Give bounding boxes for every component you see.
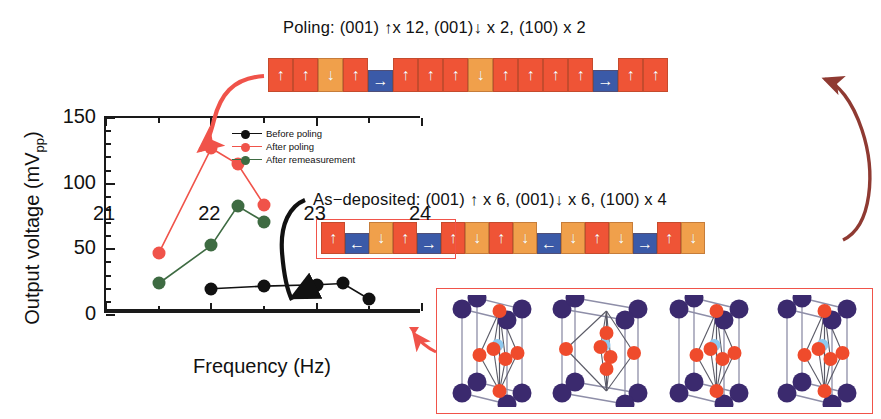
y-tick-label: 50 xyxy=(34,236,96,259)
y-tick-label: 100 xyxy=(34,170,96,193)
atom-oxygen xyxy=(487,342,501,356)
chart-legend: Before poling After poling After remeasu… xyxy=(232,127,355,166)
y-tick-minor xyxy=(106,130,111,132)
domain-cell-down: ↓ xyxy=(609,222,633,254)
domain-cell-right: → xyxy=(368,70,393,92)
data-point xyxy=(337,277,350,290)
legend-label-after-remeasurement: After remeasurement xyxy=(266,153,355,166)
domain-cell-up: ↑ xyxy=(585,222,609,254)
arrow-down-icon: ↓ xyxy=(521,230,529,246)
y-tick-minor xyxy=(106,288,111,290)
domain-cell-up: ↑ xyxy=(268,58,293,92)
x-tick-top-minor xyxy=(368,118,370,123)
as-deposited-highlight-box xyxy=(316,219,456,259)
arrow-up-icon: ↑ xyxy=(502,67,510,83)
atom-oxygen xyxy=(600,326,614,340)
x-tick-major xyxy=(421,303,423,311)
arrow-left-icon: ← xyxy=(541,236,557,252)
domain-cell-down: ↓ xyxy=(465,222,489,254)
arrow-up-icon: ↑ xyxy=(497,230,505,246)
inset-connector-arrow xyxy=(414,334,436,352)
y-tick-minor xyxy=(106,170,111,172)
x-tick-label: 22 xyxy=(198,202,220,225)
arrow-up-icon: ↑ xyxy=(552,67,560,83)
atom-oxygen xyxy=(511,346,525,360)
atom-a-site xyxy=(468,373,487,392)
legend-label-before-poling: Before poling xyxy=(266,127,322,140)
data-point xyxy=(310,278,323,291)
domain-cell-up: ↑ xyxy=(343,58,368,92)
x-tick-top-minor xyxy=(263,118,265,123)
x-tick-minor xyxy=(263,306,265,311)
arrow-down-icon: ↓ xyxy=(473,230,481,246)
arrow-up-icon: ↑ xyxy=(652,67,660,83)
atom-oxygen xyxy=(559,342,573,356)
domain-cell-up: ↑ xyxy=(443,58,468,92)
arrow-up-icon: ↑ xyxy=(302,67,310,83)
arrow-up-icon: ↑ xyxy=(627,67,635,83)
atom-oxygen xyxy=(835,346,849,360)
x-tick-top xyxy=(105,118,107,126)
x-tick-label: 21 xyxy=(93,202,115,225)
arrow-down-icon: ↓ xyxy=(617,230,625,246)
y-tick-minor xyxy=(106,275,111,277)
figure-canvas: Poling: (001) ↑x 12, (001)↓ x 2, (100) x… xyxy=(0,0,881,419)
data-point xyxy=(363,293,376,306)
data-point xyxy=(205,239,218,252)
x-tick-top xyxy=(316,118,318,126)
y-tick-minor xyxy=(106,301,111,303)
atom-oxygen xyxy=(594,340,608,354)
domain-cell-up: ↑ xyxy=(418,58,443,92)
perovskite-unit-cell xyxy=(659,295,759,407)
domain-cell-left: ← xyxy=(537,233,561,254)
y-tick-major xyxy=(106,314,115,316)
remeasurement-loop-arrow xyxy=(825,79,870,240)
arrow-right-icon: → xyxy=(637,236,653,252)
data-point xyxy=(205,142,218,155)
x-tick-major xyxy=(210,303,212,311)
y-tick-minor xyxy=(106,261,111,263)
poling-domain-strip: ↑↑↓↑→↑↑↑↓↑↑↑↑→↑↑ xyxy=(268,58,668,92)
arrow-up-icon: ↑ xyxy=(427,67,435,83)
domain-cell-down: ↓ xyxy=(681,222,705,254)
data-point xyxy=(258,280,271,293)
x-tick-label: 23 xyxy=(304,202,326,225)
data-point xyxy=(258,198,271,211)
atom-oxygen xyxy=(709,384,723,398)
y-tick-minor xyxy=(106,143,111,145)
atom-a-site xyxy=(566,373,585,392)
legend-label-after-poling: After poling xyxy=(266,140,314,153)
arrow-up-icon: ↑ xyxy=(352,67,360,83)
arrow-right-icon: → xyxy=(373,73,389,89)
arrow-up-icon: ↑ xyxy=(665,230,673,246)
legend-swatch-before-poling xyxy=(232,128,262,140)
domain-cell-down: ↓ xyxy=(561,222,585,254)
atom-oxygen xyxy=(627,346,641,360)
atom-oxygen xyxy=(493,304,507,318)
arrow-right-icon: → xyxy=(598,73,614,89)
atom-a-site xyxy=(792,373,811,392)
arrow-up-icon: ↑ xyxy=(527,67,535,83)
arrow-down-icon: ↓ xyxy=(569,230,577,246)
domain-cell-up: ↑ xyxy=(643,58,668,92)
x-axis-red-marker xyxy=(409,327,419,335)
legend-item-after-remeasurement: After remeasurement xyxy=(232,153,355,166)
y-tick-minor xyxy=(106,196,111,198)
atom-oxygen xyxy=(797,348,811,362)
domain-cell-up: ↑ xyxy=(518,58,543,92)
atom-oxygen xyxy=(689,348,703,362)
x-tick-label: 24 xyxy=(409,202,431,225)
domain-cell-up: ↑ xyxy=(543,58,568,92)
data-point xyxy=(205,282,218,295)
domain-cell-down: ↓ xyxy=(513,222,537,254)
y-tick-label: 0 xyxy=(34,302,96,325)
arrow-down-icon: ↓ xyxy=(689,230,697,246)
domain-cell-up: ↑ xyxy=(393,58,418,92)
arrow-up-icon: ↑ xyxy=(593,230,601,246)
y-tick-label: 150 xyxy=(34,105,96,128)
domain-cell-up: ↑ xyxy=(657,222,681,254)
domain-cell-up: ↑ xyxy=(293,58,318,92)
atom-oxygen xyxy=(499,352,513,366)
x-tick-minor xyxy=(368,306,370,311)
x-axis-title: Frequency (Hz) xyxy=(104,355,420,378)
